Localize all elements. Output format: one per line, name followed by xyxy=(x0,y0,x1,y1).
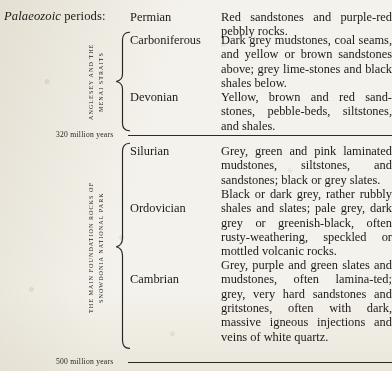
group-caption-snowdonia-line-1: THE MAIN FOUNDATION ROCKS OF xyxy=(87,148,97,348)
period-name-silurian: Silurian xyxy=(130,144,216,158)
epoch-marker-label-500: 500 million years xyxy=(56,357,113,366)
group-caption-anglesey-line-1: ANGLESEY AND THE xyxy=(87,32,97,132)
page-title-emphasis: Palaeozoic xyxy=(4,9,61,23)
period-name-devonian: Devonian xyxy=(130,90,216,104)
period-name-permian: Permian xyxy=(130,10,216,24)
epoch-marker-rule-500 xyxy=(128,362,392,363)
rock-description-cambrian: Grey, purple and green slates and mudsto… xyxy=(221,258,392,344)
group-brace-snowdonia xyxy=(113,142,133,350)
rock-description-ordovician: Black or dark grey, rather rubbly shales… xyxy=(221,187,392,259)
period-name-carboniferous: Carboniferous xyxy=(130,33,216,47)
group-caption-snowdonia: THE MAIN FOUNDATION ROCKS OF SNOWDONIA N… xyxy=(87,148,106,348)
period-name-cambrian: Cambrian xyxy=(130,272,216,286)
epoch-marker-rule-320 xyxy=(128,135,392,136)
group-caption-snowdonia-line-2: SNOWDONIA NATIONAL PARK xyxy=(97,148,107,348)
page-title: Palaeozoic periods: xyxy=(4,9,106,24)
rock-description-devonian: Yellow, brown and red sand-stones, pebbl… xyxy=(221,90,392,133)
page-title-rest: periods: xyxy=(61,9,106,23)
group-caption-anglesey-line-2: MENAI STRAITS xyxy=(97,32,107,132)
rock-description-silurian: Grey, green and pink laminated mudstones… xyxy=(221,144,392,187)
group-caption-anglesey: ANGLESEY AND THE MENAI STRAITS xyxy=(87,32,106,132)
rock-description-carboniferous: Dark grey mudstones, coal seams, and yel… xyxy=(221,33,392,90)
epoch-marker-label-320: 320 million years xyxy=(56,130,113,139)
period-name-ordovician: Ordovician xyxy=(130,201,216,215)
